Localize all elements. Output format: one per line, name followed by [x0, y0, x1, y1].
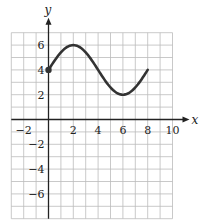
y-tick-label: −2	[28, 138, 44, 151]
graph: −2246810642−2−4−6 x y	[0, 0, 202, 222]
x-axis-arrow-icon	[183, 117, 190, 123]
x-axis-label: x	[192, 113, 199, 127]
y-axis-arrow-icon	[46, 18, 52, 25]
start-point-marker	[45, 67, 51, 73]
x-tick-label: 6	[119, 124, 126, 137]
x-tick-label: 4	[95, 124, 102, 137]
y-axis-label: y	[44, 3, 52, 17]
x-tick-label: 10	[166, 124, 180, 137]
y-tick-label: −4	[28, 163, 44, 176]
x-tick-label: 8	[144, 124, 151, 137]
y-tick-label: 4	[38, 64, 45, 77]
y-tick-label: −6	[28, 188, 44, 201]
x-tick-label: 2	[70, 124, 77, 137]
x-tick-label: −2	[16, 124, 32, 137]
y-tick-label: 6	[38, 39, 45, 52]
y-tick-label: 2	[38, 89, 45, 102]
